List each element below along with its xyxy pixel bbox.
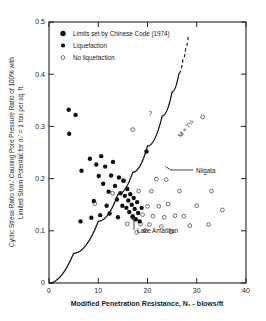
data-point-liquefaction bbox=[124, 206, 128, 210]
y-axis-title-line2: Limited Strain Potential for σᵥ' = 1 ton… bbox=[17, 85, 25, 219]
y-axis-title-line1: Cyclic Stress Ratio τ/σᵥ' Causing Pore P… bbox=[8, 57, 16, 247]
figure-container: 010203040 00.10.20.30.40.5 Niigata Lake … bbox=[0, 0, 266, 321]
curve-solid bbox=[49, 73, 179, 283]
x-tick-label: 20 bbox=[144, 287, 152, 294]
x-tick-label: 10 bbox=[94, 287, 102, 294]
y-axis-tick-labels: 00.10.20.30.40.5 bbox=[35, 18, 45, 286]
y-tick-label: 0 bbox=[41, 279, 45, 286]
data-point-liquefaction bbox=[94, 162, 98, 166]
data-point-liquefaction bbox=[99, 154, 103, 158]
data-point-liquefaction bbox=[73, 113, 77, 117]
data-point-liquefaction bbox=[125, 187, 129, 191]
data-point-liquefaction bbox=[103, 164, 107, 168]
data-point-liquefaction bbox=[97, 174, 101, 178]
x-tick-label: 40 bbox=[242, 287, 250, 294]
legend-label-chinese-code: Limits set by Chinese Code (1974) bbox=[73, 30, 170, 38]
data-point-no-liquefaction bbox=[151, 214, 155, 218]
data-point-liquefaction bbox=[126, 198, 130, 202]
data-point-no-liquefaction bbox=[150, 189, 154, 193]
scatter-plot: 010203040 00.10.20.30.40.5 Niigata Lake … bbox=[0, 0, 266, 321]
legend-label-no-liquefaction: No liquefaction bbox=[73, 54, 115, 62]
data-point-liquefaction bbox=[115, 197, 119, 201]
data-point-no-liquefaction bbox=[137, 189, 141, 193]
data-point-no-liquefaction bbox=[125, 222, 129, 226]
data-point-liquefaction bbox=[107, 211, 111, 215]
niigata-leader bbox=[166, 167, 194, 171]
data-point-liquefaction bbox=[132, 207, 136, 211]
y-tick-label: 0.4 bbox=[35, 71, 45, 78]
data-point-liquefaction bbox=[116, 215, 120, 219]
data-point-liquefaction bbox=[132, 196, 136, 200]
data-point-liquefaction bbox=[117, 175, 121, 179]
data-point-liquefaction bbox=[144, 149, 148, 153]
data-point-liquefaction bbox=[67, 108, 71, 112]
data-point-liquefaction bbox=[78, 219, 82, 223]
legend-label-liquefaction: Liquefaction bbox=[73, 42, 107, 50]
data-point-liquefaction bbox=[123, 194, 127, 198]
series-liquefaction bbox=[67, 108, 149, 224]
data-point-no-liquefaction bbox=[131, 128, 135, 132]
data-point-no-liquefaction bbox=[195, 204, 199, 208]
annotation-question-mark: ? bbox=[149, 110, 153, 117]
data-point-no-liquefaction bbox=[220, 208, 224, 212]
data-point-liquefaction bbox=[89, 216, 93, 220]
data-point-liquefaction bbox=[137, 219, 141, 223]
data-point-no-liquefaction bbox=[157, 204, 161, 208]
data-point-liquefaction bbox=[118, 191, 122, 195]
annotation-niigata: Niigata bbox=[196, 167, 216, 175]
data-point-no-liquefaction bbox=[178, 189, 182, 193]
x-tick-label: 30 bbox=[193, 287, 201, 294]
data-point-liquefaction bbox=[109, 173, 113, 177]
legend-marker-chinese-code bbox=[60, 31, 65, 36]
data-point-no-liquefaction bbox=[210, 189, 214, 193]
annotation-magnitude-label: M ≈ 7½ bbox=[176, 117, 195, 138]
data-point-liquefaction bbox=[128, 192, 132, 196]
data-point-liquefaction bbox=[135, 200, 139, 204]
data-point-liquefaction bbox=[92, 199, 96, 203]
data-point-no-liquefaction bbox=[173, 214, 177, 218]
x-axis-title: Modified Penetration Resistance, N₁ - bl… bbox=[71, 300, 224, 308]
data-point-liquefaction bbox=[136, 211, 140, 215]
data-point-no-liquefaction bbox=[146, 204, 150, 208]
data-point-liquefaction bbox=[106, 189, 110, 193]
data-point-liquefaction bbox=[113, 184, 117, 188]
data-point-no-liquefaction bbox=[201, 115, 205, 119]
y-tick-label: 0.5 bbox=[35, 18, 45, 25]
data-point-liquefaction bbox=[67, 132, 71, 136]
data-point-no-liquefaction bbox=[166, 202, 170, 206]
x-axis-tick-labels: 010203040 bbox=[47, 287, 250, 294]
data-point-no-liquefaction bbox=[162, 215, 166, 219]
y-tick-label: 0.3 bbox=[35, 123, 45, 130]
data-point-liquefaction bbox=[98, 213, 102, 217]
data-point-liquefaction bbox=[79, 169, 83, 173]
data-point-liquefaction bbox=[104, 204, 108, 208]
x-tick-label: 0 bbox=[47, 287, 51, 294]
data-point-liquefaction bbox=[111, 160, 115, 164]
data-point-liquefaction bbox=[121, 178, 125, 182]
legend: Limits set by Chinese Code (1974) Liquef… bbox=[60, 30, 169, 62]
y-tick-label: 0.1 bbox=[35, 227, 45, 234]
data-point-liquefaction bbox=[139, 206, 143, 210]
data-point-no-liquefaction bbox=[154, 177, 158, 181]
data-point-liquefaction bbox=[120, 204, 124, 208]
curve-dashed bbox=[179, 36, 188, 74]
data-point-liquefaction bbox=[88, 157, 92, 161]
annotation-lake-amatitlan: Lake Amatitlan bbox=[137, 227, 179, 234]
data-point-no-liquefaction bbox=[141, 213, 145, 217]
legend-marker-liquefaction bbox=[61, 43, 65, 47]
data-point-liquefaction bbox=[101, 182, 105, 186]
legend-marker-no-liquefaction bbox=[61, 56, 65, 60]
y-tick-label: 0.2 bbox=[35, 175, 45, 182]
data-point-no-liquefaction bbox=[111, 191, 115, 195]
boundary-curves bbox=[49, 36, 188, 283]
data-point-liquefaction bbox=[130, 203, 134, 207]
data-point-liquefaction bbox=[127, 210, 131, 214]
data-point-no-liquefaction bbox=[188, 224, 192, 228]
data-point-no-liquefaction bbox=[182, 214, 186, 218]
data-point-no-liquefaction bbox=[164, 178, 168, 182]
data-point-no-liquefaction bbox=[207, 223, 211, 227]
